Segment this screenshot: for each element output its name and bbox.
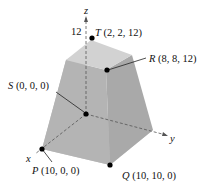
point-P [39,146,44,151]
right-face [106,55,153,165]
point-S [83,111,88,116]
label-S: S (0, 0, 0) [8,80,50,92]
point-Q [107,162,112,167]
point-R [104,67,109,72]
label-R: R (8, 8, 12) [148,53,197,65]
label-T: T (2, 2, 12) [95,27,142,39]
y-axis-arrow [162,132,168,136]
x-axis-label: x [25,153,31,164]
frustum-diagram: z y x 12 T (2, 2, 12) R (8, 8, 12) S (0,… [0,0,211,183]
z-axis-arrow [84,16,88,22]
z-axis-label: z [83,5,88,16]
label-Q: Q (10, 10, 0) [122,170,176,182]
y-axis-label: y [169,133,175,144]
point-T [89,35,94,40]
z-tick-label: 12 [71,26,82,37]
front-face [42,60,110,165]
label-P: P (10, 0, 0) [31,165,80,177]
